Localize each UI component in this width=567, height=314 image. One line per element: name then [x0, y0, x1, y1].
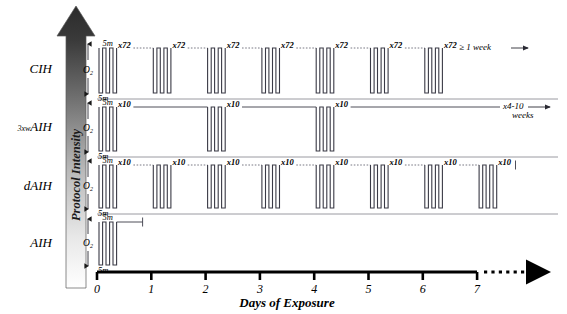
repeat-count-label: x72: [171, 40, 186, 50]
protocol-row-cih: 5m5mx72x72x72x72x72x72x72≥ 1 week: [98, 38, 528, 104]
x-axis-tick-label: 4: [311, 282, 317, 296]
o2-label-daih: O2: [83, 181, 93, 192]
repeat-count-label: x72: [389, 40, 404, 50]
repeat-count-label: x10: [443, 157, 458, 167]
oxygen-waveform-burst: [479, 165, 497, 208]
o2-label-aih: O2: [83, 238, 93, 249]
row-end-label-line2: weeks: [512, 110, 534, 120]
oxygen-waveform-burst: [99, 107, 117, 151]
oxygen-waveform-burst: [153, 165, 171, 208]
oxygen-waveform-burst: [316, 107, 334, 151]
repeat-count-label: x10: [117, 99, 132, 109]
x-axis-tick-label: 2: [203, 282, 209, 296]
repeat-count-label: x72: [226, 40, 241, 50]
oxygen-waveform-burst: [208, 165, 226, 208]
oxygen-waveform-burst: [371, 165, 389, 208]
protocol-row-daih: 5m5mx10x10x10x10x10x10x10x10: [98, 155, 516, 219]
repeat-count-label: x10: [117, 157, 132, 167]
figure-canvas: Protocol Intensity CIH 3xwAIH dAIH AIH: [0, 0, 567, 314]
oxygen-waveform-burst: [262, 165, 280, 208]
oxygen-waveform-burst: [425, 165, 443, 208]
repeat-count-label: x10: [497, 157, 512, 167]
x-axis-tick-label: 1: [148, 282, 154, 296]
x-axis-tick-label: 6: [420, 282, 426, 296]
oxygen-waveform-burst: [99, 165, 117, 208]
repeat-count-label: x72: [117, 40, 132, 50]
row-label-text-aih: AIH: [29, 119, 52, 134]
row-label-3xwaih: 3xwAIH: [16, 119, 52, 134]
x-axis-tick-label: 5: [366, 282, 372, 296]
waveform-rows: 5m5mx72x72x72x72x72x72x72≥ 1 week5m5mx10…: [98, 38, 550, 276]
oxygen-waveform-burst: [425, 48, 443, 93]
repeat-count-label: x10: [334, 99, 349, 109]
protocol-row-aih: 5m5m: [98, 212, 143, 276]
duration-label-top: 5m: [103, 38, 113, 48]
x-axis-tick-label: 0: [94, 282, 100, 296]
oxygen-waveform-burst: [99, 48, 117, 93]
row-labels: CIH 3xwAIH dAIH AIH: [16, 61, 52, 250]
repeat-count-label: x72: [443, 40, 458, 50]
protocol-timeline-figure: Protocol Intensity CIH 3xwAIH dAIH AIH: [0, 0, 567, 314]
protocol-row-3xwaih: 5m5mx10x10x10x4-10weeks: [98, 97, 550, 162]
x-axis: 01234567 Days of Exposure: [94, 272, 548, 310]
o2-sub-daih: 2: [90, 186, 93, 192]
x-axis-title: Days of Exposure: [238, 295, 335, 310]
repeat-count-label: x72: [280, 40, 295, 50]
repeat-count-label: x10: [226, 99, 241, 109]
repeat-count-label: x10: [171, 157, 186, 167]
row-label-aih: AIH: [29, 235, 52, 250]
o2-sub-cih: 2: [90, 70, 93, 76]
o2-sub-aih: 2: [90, 243, 93, 249]
oxygen-waveform-burst: [371, 48, 389, 93]
repeat-count-label: x10: [389, 157, 404, 167]
o2-label-cih: O2: [83, 65, 93, 76]
oxygen-waveform-burst: [208, 48, 226, 93]
row-label-daih: dAIH: [24, 178, 53, 193]
repeat-count-label: x10: [226, 157, 241, 167]
oxygen-waveform-burst: [262, 48, 280, 93]
oxygen-waveform-burst: [208, 107, 226, 151]
intensity-axis-label: Protocol Intensity: [69, 129, 83, 221]
repeat-count-label: x72: [334, 40, 349, 50]
duration-label-top: 5m: [103, 97, 113, 107]
x-axis-tick-label: 7: [474, 282, 481, 296]
row-separators: [97, 99, 558, 214]
oxygen-waveform-burst: [153, 48, 171, 93]
oxygen-waveform-burst: [316, 165, 334, 208]
row-label-cih: CIH: [30, 61, 53, 76]
o2-sub-3xwaih: 2: [90, 128, 93, 134]
oxygen-waveform-burst: [99, 222, 117, 265]
o2-label-3xwaih: O2: [83, 123, 93, 134]
x-axis-tick-label: 3: [256, 282, 263, 296]
row-end-label: ≥ 1 week: [459, 42, 492, 52]
duration-label-top: 5m: [103, 155, 113, 165]
row-end-label: x4-10: [502, 101, 524, 111]
row-label-prefix-3xw: 3xw: [16, 124, 31, 133]
x-axis-ticks: 01234567: [94, 272, 481, 296]
repeat-count-label: x10: [334, 157, 349, 167]
repeat-count-label: x10: [280, 157, 295, 167]
duration-label-top: 5m: [103, 212, 113, 222]
oxygen-waveform-burst: [316, 48, 334, 93]
